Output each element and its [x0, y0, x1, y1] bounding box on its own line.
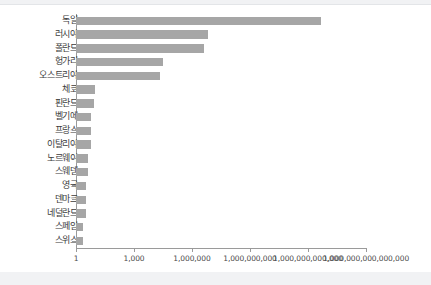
bar[interactable]	[76, 85, 95, 93]
page-root: 독일러시아폴란드헝가리오스트리아체코핀란드벨기에프랑스이탈리아노르웨이스웨덴영국…	[0, 0, 431, 285]
bar-row: 핀란드	[0, 97, 431, 111]
bar[interactable]	[76, 209, 86, 217]
x-axis-tick	[76, 248, 77, 252]
bar[interactable]	[76, 17, 321, 25]
x-axis-tick-label: 1,000,000,000,000,000	[323, 254, 409, 263]
bar-row: 영국	[0, 179, 431, 193]
bar-row: 스위스	[0, 234, 431, 248]
x-axis-tick	[366, 248, 367, 252]
bar-row: 이탈리아	[0, 138, 431, 152]
bar-row: 오스트리아	[0, 69, 431, 83]
x-axis-tick	[134, 248, 135, 252]
bar[interactable]	[76, 140, 91, 148]
bar[interactable]	[76, 237, 83, 245]
bar-row: 러시아	[0, 28, 431, 42]
bar-chart: 독일러시아폴란드헝가리오스트리아체코핀란드벨기에프랑스이탈리아노르웨이스웨덴영국…	[0, 5, 431, 272]
x-axis-tick-label: 1	[74, 254, 79, 263]
x-axis-line	[76, 248, 366, 249]
bar[interactable]	[76, 30, 208, 38]
x-axis-tick-label: 1,000,000,000	[223, 254, 277, 263]
x-axis-tick	[192, 248, 193, 252]
bar-row: 독일	[0, 14, 431, 28]
bar-row: 노르웨이	[0, 152, 431, 166]
bar[interactable]	[76, 182, 86, 190]
bar[interactable]	[76, 72, 160, 80]
bar[interactable]	[76, 223, 83, 231]
x-axis-tick-label: 1,000,000	[173, 254, 210, 263]
bar[interactable]	[76, 99, 94, 107]
bar-row: 체코	[0, 83, 431, 97]
bar-row: 폴란드	[0, 42, 431, 56]
bar[interactable]	[76, 127, 91, 135]
x-axis-tick	[250, 248, 251, 252]
bar-row: 스웨덴	[0, 165, 431, 179]
x-axis-tick	[308, 248, 309, 252]
bar-row: 네덜란드	[0, 207, 431, 221]
bar[interactable]	[76, 44, 204, 52]
bar-row: 헝가리	[0, 55, 431, 69]
page-band-bottom	[0, 272, 431, 285]
bar-row: 프랑스	[0, 124, 431, 138]
bar-row: 벨기에	[0, 110, 431, 124]
bar[interactable]	[76, 58, 163, 66]
bar[interactable]	[76, 154, 88, 162]
x-axis-tick-label: 1,000	[124, 254, 145, 263]
bar[interactable]	[76, 196, 86, 204]
bar[interactable]	[76, 168, 88, 176]
bar-row: 스페인	[0, 220, 431, 234]
bar-row: 덴마크	[0, 193, 431, 207]
bar[interactable]	[76, 113, 91, 121]
